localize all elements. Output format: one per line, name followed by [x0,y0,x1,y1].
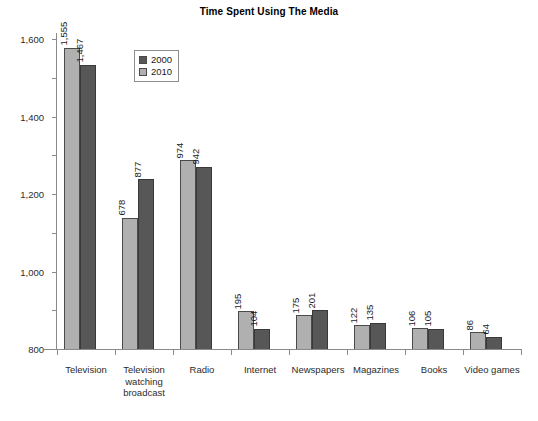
y-axis-tick-label: 1,000 [20,266,44,277]
bar-group: 974942 [173,39,231,349]
bar-2010-magazines: 122 [354,325,370,349]
legend-label-2000: 2000 [151,55,172,65]
bar-2010-radio: 974 [180,160,196,349]
y-axis-tick-label: 1,600 [20,34,44,45]
y-axis-tick-label: 800 [28,344,44,355]
legend-entry-2000: 2000 [139,54,172,66]
x-axis-tick [463,349,464,355]
bar-2000-television-watching-broadcast: 877 [138,179,154,349]
legend-label-2010: 2010 [151,67,172,77]
chart-legend: 2000 2010 [134,50,179,82]
bar-2010-television: 1,555 [64,48,80,349]
x-axis-tick [405,349,406,355]
bar-2000-radio: 942 [196,167,212,350]
bar-2000-television: 1,467 [80,65,96,349]
category-label-line: broadcast [109,387,179,399]
bar-2000-video-games: 64 [486,337,502,349]
legend-swatch-2000-icon [139,56,147,64]
bar-2010-television-watching-broadcast: 678 [122,218,138,349]
bar-group: 122135 [347,39,405,349]
bar-group: 1,5551,467 [57,39,115,349]
x-axis-category-label: Video games [457,364,527,376]
bar-group: 106105 [405,39,463,349]
category-label-line: Video games [457,364,527,376]
x-axis-tick [173,349,174,355]
bar-2000-newspapers: 201 [312,310,328,349]
category-label-line: watching [109,376,179,388]
bar-2000-internet: 104 [254,329,270,349]
x-axis-tick [115,349,116,355]
y-axis-tick-label: 1,400 [20,111,44,122]
y-axis-tick-label: 1,200 [20,189,44,200]
x-axis-tick [347,349,348,355]
bar-group: 8664 [463,39,521,349]
bar-group: 195104 [231,39,289,349]
x-axis-tick [521,349,522,355]
x-axis-tick [231,349,232,355]
bar-2010-books: 106 [412,328,428,349]
bar-2010-newspapers: 175 [296,315,312,349]
plot-area: 02004006008001,0001,2001,4001,6001,5551,… [57,39,521,349]
x-axis-tick [289,349,290,355]
bar-group: 678877 [115,39,173,349]
bar-group: 175201 [289,39,347,349]
chart-title: Time Spent Using The Media [0,6,538,17]
x-axis-tick [57,349,58,355]
bar-2000-magazines: 135 [370,323,386,349]
bar-2010-video-games: 86 [470,332,486,349]
legend-entry-2010: 2010 [139,66,172,78]
bar-2000-books: 105 [428,329,444,349]
bar-chart: Time Spent Using The Media 0200400600800… [0,0,538,421]
legend-swatch-2010-icon [139,68,147,76]
